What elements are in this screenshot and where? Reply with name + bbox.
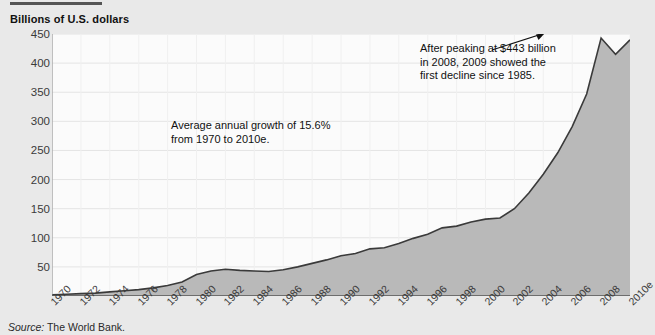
y-tick-label: 50	[4, 261, 50, 273]
y-tick-label: 200	[4, 174, 50, 186]
x-tick-label: 2010e	[626, 278, 655, 307]
y-tick-label: 150	[4, 203, 50, 215]
y-axis-tick-labels: 50100150200250300350400450	[0, 34, 50, 296]
source-line: Source: The World Bank.	[8, 321, 125, 333]
y-tick-label: 100	[4, 232, 50, 244]
y-axis-title: Billions of U.S. dollars	[10, 13, 129, 25]
source-text: The World Bank.	[47, 321, 125, 333]
y-tick-label: 300	[4, 115, 50, 127]
annotation-peak-decline: After peaking at $443 billion in 2008, 2…	[420, 42, 556, 83]
annotation-average-growth: Average annual growth of 15.6% from 1970…	[171, 119, 330, 146]
y-tick-label: 450	[4, 28, 50, 40]
y-tick-label: 400	[4, 57, 50, 69]
y-tick-label: 350	[4, 86, 50, 98]
top-divider-rule	[10, 2, 102, 5]
source-label: Source:	[8, 321, 44, 333]
x-axis-tick-labels: 1970197219741976197819801982198419861988…	[52, 297, 630, 331]
y-tick-label: 250	[4, 144, 50, 156]
